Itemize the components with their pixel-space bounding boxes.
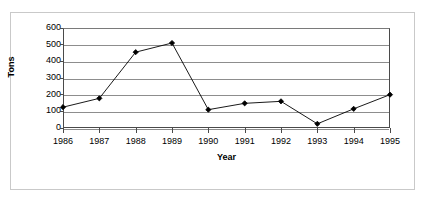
- x-axis-tick-mark: [245, 128, 246, 133]
- y-axis-tick-label: 300: [35, 73, 61, 82]
- y-axis-title: Tons: [6, 47, 16, 87]
- x-axis-tick-label: 1994: [334, 136, 374, 146]
- x-axis-tick-label: 1995: [370, 136, 410, 146]
- x-axis-tick-mark: [63, 128, 64, 133]
- x-axis-title: Year: [63, 152, 390, 162]
- data-point-marker: [169, 40, 174, 45]
- y-axis-tick-label: 200: [35, 90, 61, 99]
- y-axis-tick-label: 0: [35, 123, 61, 132]
- x-axis-tick-label: 1993: [297, 136, 337, 146]
- x-axis-tick-label: 1988: [116, 136, 156, 146]
- y-axis-tick-label: 600: [35, 23, 61, 32]
- data-point-marker: [206, 107, 211, 112]
- x-axis-tick-mark: [317, 128, 318, 133]
- x-axis-tick-marks: [63, 128, 390, 134]
- x-axis-tick-label: 1990: [188, 136, 228, 146]
- data-point-marker: [315, 121, 320, 126]
- x-axis-tick-mark: [390, 128, 391, 133]
- x-axis-tick-label: 1986: [43, 136, 83, 146]
- series-line-tons: [63, 28, 390, 128]
- series-polyline: [63, 43, 390, 124]
- data-point-marker: [351, 106, 356, 111]
- x-axis-tick-mark: [99, 128, 100, 133]
- x-axis-tick-mark: [136, 128, 137, 133]
- y-axis-tick-label: 100: [35, 106, 61, 115]
- y-axis-tick-label: 500: [35, 40, 61, 49]
- x-axis-tick-mark: [281, 128, 282, 133]
- x-axis-tick-labels: 1986198719881989199019911992199319941995: [63, 136, 390, 150]
- x-axis-tick-label: 1989: [152, 136, 192, 146]
- x-axis-tick-mark: [354, 128, 355, 133]
- y-axis-tick-labels: 0100200300400500600: [31, 28, 61, 128]
- y-axis-tick-label: 400: [35, 56, 61, 65]
- data-point-marker: [278, 99, 283, 104]
- x-axis-tick-label: 1991: [225, 136, 265, 146]
- x-axis-tick-mark: [172, 128, 173, 133]
- chart-figure: Tons 0100200300400500600 198619871988198…: [0, 0, 426, 206]
- x-axis-tick-label: 1987: [79, 136, 119, 146]
- data-point-marker: [242, 101, 247, 106]
- x-axis-tick-label: 1992: [261, 136, 301, 146]
- x-axis-tick-mark: [208, 128, 209, 133]
